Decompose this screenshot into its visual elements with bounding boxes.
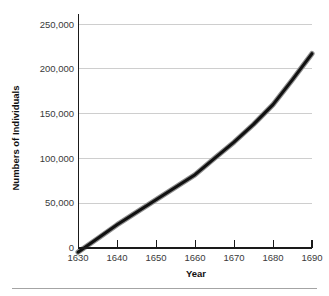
y-axis-tick-labels: 250,000 200,000 150,000 100,000 50,000 0 [40,19,74,254]
y-tick-label-250000: 250,000 [40,19,74,30]
line-chart: 250,000 200,000 150,000 100,000 50,000 0 [0,0,329,296]
series-highlight-stroke [78,54,312,253]
axis-spines [78,14,312,248]
x-tick-label-1640: 1640 [106,252,127,263]
x-axis-tickmarks [78,240,312,248]
x-tick-label-1690: 1690 [301,252,322,263]
y-axis-title: Numbers of Individuals [10,85,21,190]
x-axis-tick-labels: 1630 1640 1650 1660 1670 1680 1690 [67,252,322,263]
y-tick-label-50000: 50,000 [45,197,74,208]
series-population [78,54,312,253]
y-tick-label-150000: 150,000 [40,108,74,119]
y-tick-label-100000: 100,000 [40,153,74,164]
x-tick-label-1670: 1670 [223,252,244,263]
chart-figure: 250,000 200,000 150,000 100,000 50,000 0 [0,0,329,296]
y-tick-label-200000: 200,000 [40,63,74,74]
x-tick-label-1680: 1680 [262,252,283,263]
x-tick-label-1630: 1630 [67,252,88,263]
x-axis-title: Year [186,268,206,279]
x-tick-label-1660: 1660 [184,252,205,263]
x-tick-label-1650: 1650 [145,252,166,263]
series-core-stroke [78,54,312,253]
